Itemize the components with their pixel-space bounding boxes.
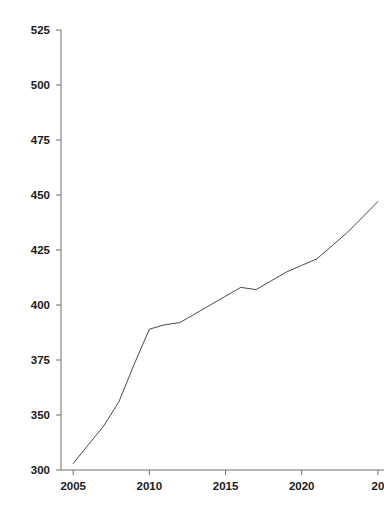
y-tick-label: 500	[31, 79, 50, 91]
x-tick-label: 2010	[137, 480, 163, 492]
x-tick-label: 2005	[60, 480, 86, 492]
data-line	[73, 202, 378, 464]
y-tick-label: 475	[31, 134, 51, 146]
y-tick-label: 525	[31, 24, 51, 36]
x-tick-label: 2015	[213, 480, 239, 492]
y-tick-label: 350	[31, 409, 50, 421]
y-axis-group: 300350375400425450475500525	[31, 24, 61, 476]
x-axis-group: 200520102015202020	[60, 470, 384, 492]
y-tick-group: 300350375400425450475500525	[31, 24, 61, 476]
line-chart: 300350375400425450475500525 200520102015…	[0, 0, 384, 529]
x-tick-label: 2020	[289, 480, 315, 492]
chart-canvas: 300350375400425450475500525 200520102015…	[0, 0, 384, 529]
y-tick-label: 375	[31, 354, 51, 366]
x-tick-label: 20	[372, 480, 384, 492]
x-tick-group: 200520102015202020	[60, 470, 384, 492]
data-series-group	[73, 202, 378, 464]
y-tick-label: 450	[31, 189, 50, 201]
y-tick-label: 300	[31, 464, 50, 476]
y-tick-label: 425	[31, 244, 51, 256]
y-tick-label: 400	[31, 299, 50, 311]
